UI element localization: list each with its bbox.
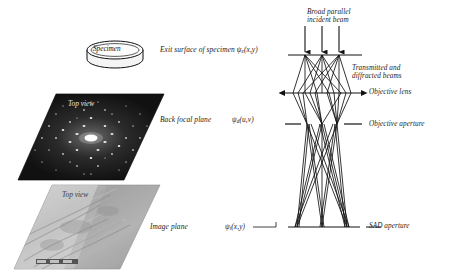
transmitted-diffracted-label: Transmitted and diffracted beams xyxy=(352,64,402,81)
image-plane-topview-label: Top view xyxy=(62,190,88,199)
transmitted-label-line1: Transmitted and xyxy=(352,64,402,72)
ray-diagram xyxy=(0,0,461,275)
objective-aperture-label: Objective aperture xyxy=(369,120,425,128)
incident-beam-arrows xyxy=(305,26,339,52)
back-focal-plane-topview-label: Top view xyxy=(68,99,94,108)
rays-bfp-to-image xyxy=(295,124,349,227)
specimen-disc-label: Specimen xyxy=(93,45,121,53)
incident-beam-label: Broad parallel incident beam xyxy=(307,8,351,25)
incident-beam-label-line1: Broad parallel xyxy=(307,8,351,16)
objective-lens-label: Objective lens xyxy=(369,88,411,96)
incident-beam-label-line2: incident beam xyxy=(307,16,351,24)
transmitted-label-line2: diffracted beams xyxy=(352,72,402,80)
sad-aperture-label: SAD aperture xyxy=(369,222,410,230)
transmitted-diffracted-rays xyxy=(293,55,351,93)
rays-lens-to-bfp xyxy=(293,93,351,124)
figure-canvas: Specimen Exit surface of specimen ψe(x,y… xyxy=(0,0,461,275)
